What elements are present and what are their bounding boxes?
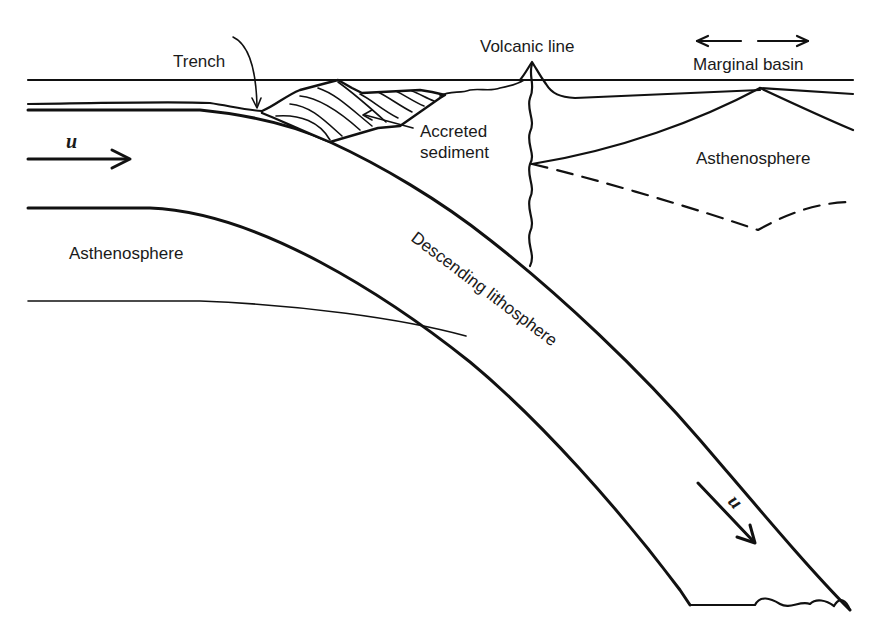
marginal-basin-spreading-arrows [697,36,808,46]
trench-pointer [233,37,257,106]
velocity-label-slab: u [724,490,748,513]
marginal-basin-ridge-right [760,88,853,130]
accreted-sediment-label-1: Accreted [420,122,487,141]
lithosphere-bottom [28,208,690,605]
volcanic-line-label: Volcanic line [480,37,575,56]
dashed-boundary [532,164,853,230]
asthenosphere-right-label: Asthenosphere [696,149,810,168]
slab-broken-end [690,598,850,610]
marginal-basin-right-surface [760,88,853,94]
asthenosphere-left-label: Asthenosphere [69,244,183,263]
asthenosphere-base-line [28,301,466,336]
subduction-diagram: u u Trench Volcanic line Marginal basin … [0,0,883,618]
trench-label: Trench [173,52,225,71]
velocity-label-left: u [66,130,77,152]
accreted-sediment-wedge [262,80,445,142]
slab-velocity-arrow [698,483,755,543]
plate-velocity-arrow [28,150,130,168]
marginal-basin-label: Marginal basin [693,55,804,74]
accreted-sediment-label-2: sediment [420,143,489,162]
forearc-surface [440,80,524,96]
lithosphere-top [28,110,850,610]
